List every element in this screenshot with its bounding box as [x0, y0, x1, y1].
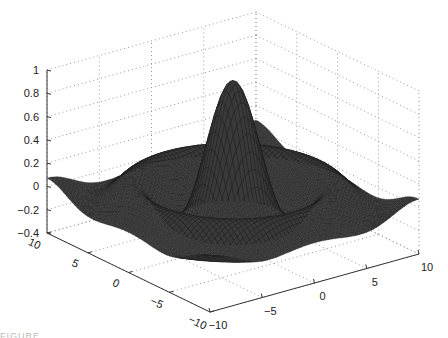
x-tick-label: 5: [372, 276, 378, 288]
x-tick-label: −10: [209, 319, 228, 331]
y-tick-label: −5: [149, 295, 165, 311]
x-tick-label: −5: [264, 305, 277, 317]
x-tick-label: 0: [319, 290, 325, 302]
x-tick-label: 10: [421, 261, 433, 273]
z-tick-label: 0.6: [24, 111, 39, 123]
figure-caption: FIGURE: [0, 331, 40, 338]
y-tick-label: 0: [111, 276, 122, 289]
z-tick-label: 0.2: [24, 157, 39, 169]
y-tick-label: −10: [187, 313, 209, 332]
z-tick-label: 0.4: [24, 134, 39, 146]
y-tick-label: 5: [70, 256, 81, 269]
z-tick-label: 0: [33, 180, 39, 192]
surface-plot: −0.4−0.200.20.40.60.81−10−50510−10−50510: [0, 0, 448, 338]
z-tick-label: −0.2: [17, 204, 39, 216]
sinc-surface: [47, 81, 419, 263]
z-tick-label: 1: [33, 64, 39, 76]
z-tick-label: 0.8: [24, 87, 39, 99]
